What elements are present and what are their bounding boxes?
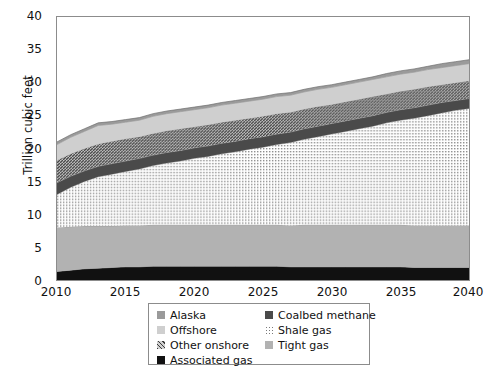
x-tick-2040: 2040 (453, 285, 484, 299)
legend-item-tight-gas[interactable]: Tight gas (265, 338, 376, 352)
tight-gas-swatch (265, 341, 273, 349)
legend-label-tight-gas: Tight gas (278, 339, 329, 352)
y-tick-20: 20 (14, 142, 42, 156)
x-tick-2025: 2025 (248, 285, 279, 299)
y-tick-15: 15 (14, 175, 42, 189)
y-tick-10: 10 (14, 208, 42, 222)
x-tick-2015: 2015 (110, 285, 141, 299)
other-onshore-swatch (157, 341, 165, 349)
coalbed-methane-swatch (265, 311, 273, 319)
shale-gas-swatch (265, 326, 273, 334)
legend-label-shale-gas: Shale gas (278, 324, 331, 337)
y-tick-0: 0 (14, 274, 42, 288)
y-tick-35: 35 (14, 42, 42, 56)
offshore-swatch (157, 326, 165, 334)
chart-legend: Alaska Offshore Other onshore Associated… (148, 303, 370, 365)
x-tick-2020: 2020 (179, 285, 210, 299)
stacked-area-chart-figure: Trillion cubic feet 40 35 30 25 20 15 10… (0, 0, 493, 373)
y-tick-30: 30 (14, 75, 42, 89)
legend-label-offshore: Offshore (170, 324, 217, 337)
x-tick-2035: 2035 (386, 285, 417, 299)
legend-label-alaska: Alaska (170, 309, 206, 322)
alaska-swatch (157, 311, 165, 319)
legend-label-coalbed-methane: Coalbed methane (278, 309, 376, 322)
legend-item-associated-gas[interactable]: Associated gas (157, 353, 253, 367)
legend-item-coalbed-methane[interactable]: Coalbed methane (265, 308, 376, 322)
x-tick-2010: 2010 (41, 285, 72, 299)
y-axis-tick-labels: 40 35 30 25 20 15 10 5 0 (12, 0, 42, 373)
y-tick-5: 5 (14, 241, 42, 255)
legend-item-shale-gas[interactable]: Shale gas (265, 323, 376, 337)
area-associated-gas (57, 266, 469, 280)
x-tick-2030: 2030 (317, 285, 348, 299)
associated-gas-swatch (157, 356, 165, 364)
legend-column-right: Coalbed methane Shale gas Tight gas (265, 308, 376, 353)
y-tick-25: 25 (14, 108, 42, 122)
legend-item-alaska[interactable]: Alaska (157, 308, 253, 322)
legend-item-other-onshore[interactable]: Other onshore (157, 338, 253, 352)
plot-area (56, 16, 470, 281)
legend-label-other-onshore: Other onshore (170, 339, 249, 352)
legend-column-left: Alaska Offshore Other onshore Associated… (157, 308, 253, 368)
y-tick-40: 40 (14, 9, 42, 23)
area-chart-svg (57, 17, 469, 280)
legend-label-associated-gas: Associated gas (170, 354, 253, 367)
legend-item-offshore[interactable]: Offshore (157, 323, 253, 337)
area-tight-gas (57, 225, 469, 272)
